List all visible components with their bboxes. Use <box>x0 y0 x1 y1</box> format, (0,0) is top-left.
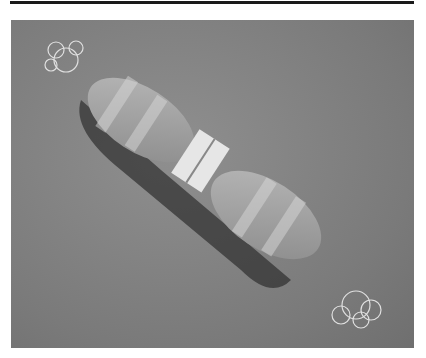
photograph <box>11 20 414 348</box>
top-rule <box>10 1 414 4</box>
purse-illustration <box>11 20 414 348</box>
